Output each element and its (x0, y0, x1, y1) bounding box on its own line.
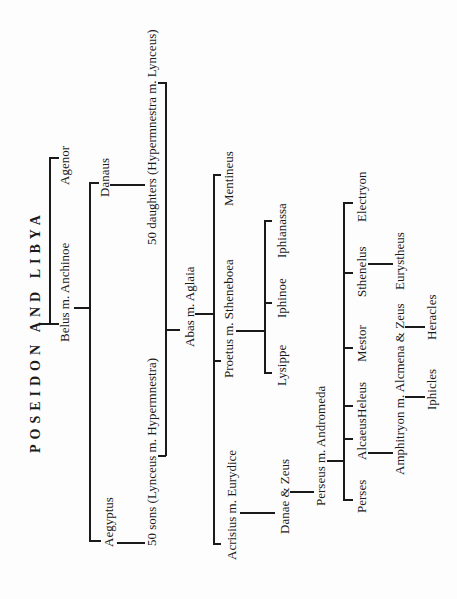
person-lysippe: Lysippe (275, 345, 288, 386)
connector (343, 438, 353, 440)
connector (236, 330, 264, 332)
connector (290, 491, 314, 493)
connector (89, 182, 91, 540)
connector (264, 220, 266, 373)
connector (213, 174, 215, 544)
connector (405, 396, 425, 398)
connector (89, 540, 101, 542)
connector (49, 157, 51, 324)
connector (368, 263, 393, 265)
person-aegyptus: Aegyptus (102, 497, 115, 547)
connector (39, 323, 49, 325)
person-amphitryon: Amphitryon m. Alcmena & Zeus (393, 303, 406, 475)
connector (264, 302, 272, 304)
connector (264, 220, 272, 222)
person-mentineus: Mentineus (222, 151, 235, 206)
person-heracles: Heracles (425, 295, 438, 340)
connector (343, 272, 353, 274)
person-perseus: Perseus m. Andromeda (314, 386, 327, 506)
genealogy-diagram: POSEIDON AND LIBYA Agenor Belus m. Anchi… (0, 0, 457, 599)
person-electryon: Electryon (355, 171, 368, 222)
person-iphinoe: Iphinoe (275, 278, 288, 318)
person-eurystheus: Eurystheus (393, 232, 406, 290)
person-belus: Belus m. Anchinoe (58, 243, 71, 342)
person-50-daughters: 50 daughters (Hypermnestra m. Lynceus) (145, 29, 158, 245)
diagram-title: POSEIDON AND LIBYA (29, 210, 43, 453)
person-iphicles: Iphicles (425, 369, 438, 410)
person-50-sons: 50 sons (Lynceus m. Hypermnestra) (145, 358, 158, 546)
person-acrisius: Acrisius m. Eurydice (225, 450, 238, 560)
connector (117, 542, 145, 544)
connector (110, 184, 145, 186)
connector (165, 329, 180, 331)
person-abas: Abas m. Aglaia (183, 266, 196, 347)
connector (195, 313, 213, 315)
person-proetus: Proetus m. Stheneboea (222, 259, 235, 378)
connector (343, 202, 353, 204)
connector (368, 452, 393, 454)
connector (343, 347, 353, 349)
connector (343, 499, 353, 501)
connector (343, 202, 345, 500)
person-heleus: Heleus (355, 382, 368, 418)
connector (213, 174, 221, 176)
connector (264, 372, 272, 374)
person-danaus: Danaus (98, 158, 111, 197)
connector (213, 543, 221, 545)
person-iphianassa: Iphianassa (275, 203, 288, 258)
connector (405, 326, 425, 328)
connector (327, 460, 343, 462)
connector (74, 307, 89, 309)
person-danae: Danae & Zeus (278, 459, 291, 534)
connector (240, 512, 275, 514)
connector (343, 405, 353, 407)
person-alcaeus: Alcaeus (355, 418, 368, 460)
connector (165, 82, 167, 456)
person-perses: Perses (355, 480, 368, 513)
person-mestor: Mestor (355, 325, 368, 362)
person-agenor: Agenor (58, 146, 71, 185)
connector (213, 360, 221, 362)
person-sthenelus: Sthenelus (355, 246, 368, 297)
connector (158, 455, 166, 457)
